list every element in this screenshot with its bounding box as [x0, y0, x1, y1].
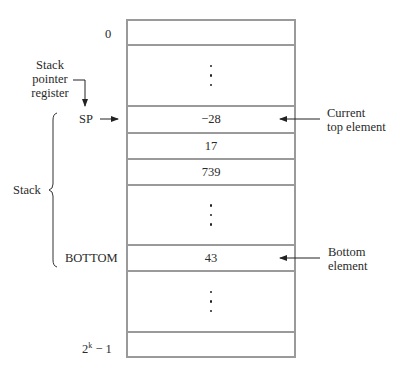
bottom-element-label-line1: Bottom [328, 245, 368, 259]
bottom-label: BOTTOM [65, 251, 118, 265]
bottom-element-label-line2: element [328, 259, 368, 273]
sp-register-label-line3: register [22, 86, 78, 100]
stack-label: Stack [13, 183, 41, 197]
sp-label: SP [79, 112, 93, 126]
address-zero-label: 0 [105, 27, 111, 41]
bottom-element-label: Bottom element [328, 245, 368, 273]
stack-brace-icon [49, 113, 57, 267]
last-address-label: 2k − 1 [82, 339, 112, 356]
last-address-suffix: − 1 [95, 342, 111, 356]
current-top-label-line2: top element [327, 120, 386, 134]
last-address-exponent: k [88, 341, 92, 350]
current-top-label-line1: Current [327, 106, 386, 120]
current-top-element-label: Current top element [327, 106, 386, 134]
diagram-arrows [0, 0, 402, 371]
sp-register-label-line2: pointer [22, 72, 78, 86]
sp-register-label: Stack pointer register [22, 58, 78, 100]
sp-register-label-line1: Stack [22, 58, 78, 72]
